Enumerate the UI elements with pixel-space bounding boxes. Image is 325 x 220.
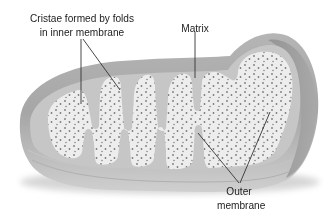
cristae-label-line1: Cristae formed by folds [29, 11, 135, 25]
outer-membrane-label: Outer membrane [217, 184, 261, 212]
cristae-label: Cristae formed by folds in inner membran… [29, 11, 135, 39]
cristae-label-line2: in inner membrane [29, 25, 135, 39]
outer-membrane-label-line1: Outer [217, 184, 261, 198]
matrix-label: Matrix [177, 21, 212, 35]
mitochondrion-diagram: Cristae formed by folds in inner membran… [0, 0, 325, 220]
outer-membrane-label-line2: membrane [217, 198, 261, 212]
